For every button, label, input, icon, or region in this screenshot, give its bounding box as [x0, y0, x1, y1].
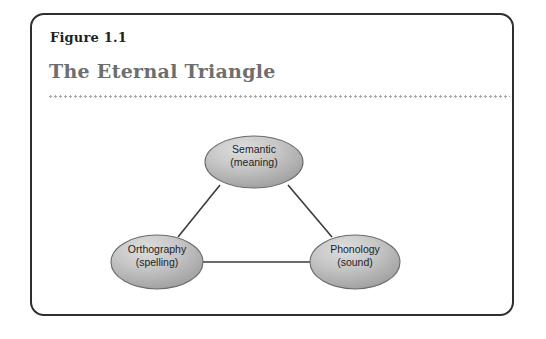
- node-semantic: [205, 136, 303, 188]
- node-phonology: [310, 235, 400, 289]
- eternal-triangle-diagram: Semantic (meaning) Orthography (spelling…: [32, 103, 512, 316]
- triangle-edges: [178, 185, 332, 262]
- node-orthography: [111, 235, 203, 289]
- triangle-nodes: [111, 136, 400, 289]
- edge-semantic-phonology: [288, 185, 332, 237]
- figure-title: The Eternal Triangle: [49, 60, 276, 82]
- title-divider-dotted-rule: [48, 95, 510, 98]
- diagram-canvas: [32, 103, 512, 316]
- figure-frame: Figure 1.1 The Eternal Triangle: [30, 13, 514, 316]
- figure-number-label: Figure 1.1: [50, 30, 127, 45]
- edge-semantic-orthography: [178, 185, 220, 237]
